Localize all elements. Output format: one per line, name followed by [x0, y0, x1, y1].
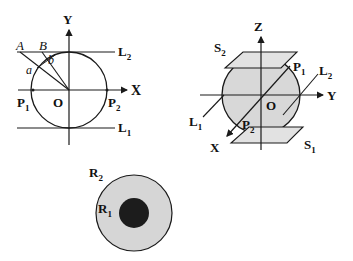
- line-l1-label: L1: [118, 120, 132, 138]
- y-axis-label: Y: [63, 12, 73, 27]
- point-p1-dot: [32, 89, 35, 92]
- x-axis-3d-label: X: [210, 140, 220, 155]
- plane-s2-label: S2: [214, 40, 226, 58]
- line-l1-3d: [203, 95, 224, 117]
- y-axis-3d-label: Y: [327, 88, 337, 103]
- point-p1-label: P1: [17, 95, 30, 113]
- origin-label: O: [53, 95, 63, 110]
- plane-s1-label: S1: [304, 137, 316, 155]
- figure-2d-circle: Y X O A B a b L2 L1 P1 P2: [15, 12, 141, 145]
- point-p2-label: P2: [108, 95, 121, 113]
- point-p1-3d-label: P1: [293, 59, 306, 77]
- figure-3d-sphere: Z Y X O S2 S1 L1 L2 P1 P2: [189, 19, 337, 155]
- x-axis-label: X: [131, 83, 141, 98]
- origin-3d-label: O: [266, 98, 276, 113]
- angle-b-label: b: [48, 53, 54, 67]
- line-l1-3d-label: L1: [189, 114, 203, 132]
- point-a-label: A: [15, 38, 24, 53]
- figure-concentric-disk: R2 R1: [89, 165, 172, 251]
- z-axis-label: Z: [254, 19, 263, 34]
- line-l2-3d-label: L2: [319, 63, 333, 81]
- point-p2-dot: [106, 89, 109, 92]
- physics-diagram: Y X O A B a b L2 L1 P1 P2 Z Y X O S2 S1 …: [0, 0, 353, 261]
- angle-a-label: a: [26, 63, 32, 77]
- line-l2-label: L2: [118, 44, 132, 62]
- point-b-label: B: [39, 38, 47, 53]
- inner-disk: [119, 198, 149, 228]
- outer-radius-label: R2: [89, 165, 103, 183]
- segment-b-o: [42, 52, 69, 90]
